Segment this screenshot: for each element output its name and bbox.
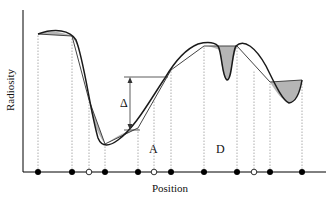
node-filled — [135, 169, 141, 175]
node-filled — [267, 169, 273, 175]
approximation-line — [38, 34, 302, 144]
radiosity-diagram: Δ A D Radiosity Position — [0, 0, 336, 200]
node-open — [151, 169, 157, 175]
node-filled — [234, 169, 240, 175]
node-filled — [299, 169, 305, 175]
node-guides — [38, 34, 302, 172]
node-filled — [35, 169, 41, 175]
node-filled — [201, 169, 207, 175]
delta-marker — [124, 77, 168, 130]
radiosity-curve — [38, 31, 302, 145]
label-d: D — [216, 142, 225, 156]
node-open — [86, 169, 92, 175]
node-filled — [168, 169, 174, 175]
x-axis-label: Position — [152, 182, 189, 194]
node-filled — [102, 169, 108, 175]
label-a: A — [149, 142, 158, 156]
delta-label: Δ — [120, 96, 128, 110]
node-filled — [69, 169, 75, 175]
y-axis-label: Radiosity — [4, 68, 16, 111]
error-regions — [38, 32, 302, 144]
node-open — [251, 169, 257, 175]
